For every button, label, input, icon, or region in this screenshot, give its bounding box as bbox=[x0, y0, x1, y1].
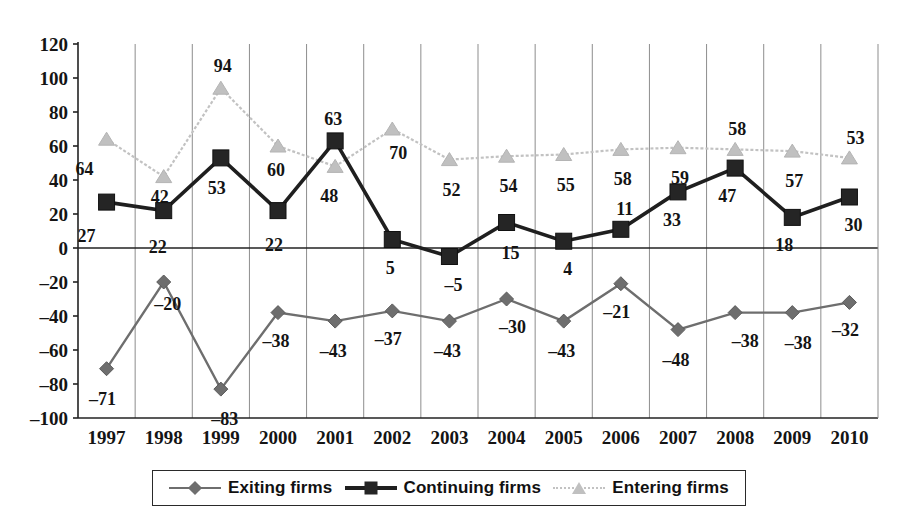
data-point-label: 4 bbox=[563, 259, 572, 279]
data-point-label: 58 bbox=[728, 119, 746, 139]
data-point-label: 15 bbox=[502, 243, 520, 263]
data-point-label: –30 bbox=[498, 317, 526, 337]
data-point-marker bbox=[213, 150, 229, 166]
y-axis-tick-labels: 120100806040200–20–40–60–80–100 bbox=[29, 34, 78, 429]
data-point-label: 94 bbox=[214, 56, 232, 76]
gridlines bbox=[135, 44, 821, 418]
legend-swatch-square-icon bbox=[345, 480, 397, 496]
data-point-marker bbox=[613, 221, 629, 237]
data-point-label: 11 bbox=[616, 199, 633, 219]
data-point-label: –71 bbox=[88, 389, 116, 409]
data-point-label: 22 bbox=[149, 237, 167, 257]
data-point-label: –37 bbox=[374, 329, 402, 349]
data-point-label: –5 bbox=[443, 275, 462, 295]
data-point-marker bbox=[327, 159, 343, 172]
chart-legend: Exiting firms Continuing firms Entering … bbox=[152, 470, 746, 506]
chart-container: 120100806040200–20–40–60–80–100 19971998… bbox=[0, 0, 899, 528]
data-point-label: 63 bbox=[324, 109, 342, 129]
data-point-label: 58 bbox=[614, 169, 632, 189]
y-tick-label: 20 bbox=[49, 204, 68, 225]
data-point-label: 53 bbox=[846, 128, 864, 148]
data-point-label: 5 bbox=[386, 258, 395, 278]
data-point-label: 60 bbox=[267, 160, 285, 180]
x-tick-label: 2007 bbox=[659, 427, 698, 448]
data-point-marker bbox=[557, 314, 571, 328]
data-point-marker bbox=[728, 306, 742, 320]
data-point-label: –32 bbox=[831, 320, 859, 340]
data-point-label: 64 bbox=[76, 159, 94, 179]
data-point-label: 33 bbox=[663, 210, 681, 230]
data-point-label: 27 bbox=[78, 226, 96, 246]
y-tick-label: 80 bbox=[49, 102, 68, 123]
data-point-marker bbox=[442, 314, 456, 328]
data-point-marker bbox=[384, 122, 400, 135]
y-tick-label: 0 bbox=[59, 238, 69, 259]
data-point-marker bbox=[328, 314, 342, 328]
x-tick-label: 1999 bbox=[202, 427, 240, 448]
data-point-label: –48 bbox=[662, 350, 690, 370]
legend-swatch-diamond-icon bbox=[169, 480, 221, 496]
data-point-label: –43 bbox=[547, 341, 575, 361]
legend-label-continuing-firms: Continuing firms bbox=[404, 478, 542, 498]
x-tick-label: 2006 bbox=[602, 427, 640, 448]
legend-label-entering-firms: Entering firms bbox=[612, 478, 729, 498]
y-tick-label: –40 bbox=[39, 306, 69, 327]
data-point-marker bbox=[841, 151, 857, 164]
data-point-marker bbox=[156, 170, 172, 183]
data-point-label: 42 bbox=[151, 187, 169, 207]
y-tick-label: 40 bbox=[49, 170, 68, 191]
data-point-marker bbox=[556, 233, 572, 249]
data-point-label: 30 bbox=[844, 215, 862, 235]
data-point-marker bbox=[499, 215, 515, 231]
line-chart-plot: 120100806040200–20–40–60–80–100 19971998… bbox=[0, 0, 899, 528]
x-tick-label: 2009 bbox=[773, 427, 811, 448]
data-point-label: 55 bbox=[557, 175, 575, 195]
data-point-label: –38 bbox=[731, 331, 759, 351]
data-point-label: 48 bbox=[320, 186, 338, 206]
legend-swatch-triangle-icon bbox=[553, 480, 605, 496]
data-point-label: 22 bbox=[265, 235, 283, 255]
data-point-marker bbox=[327, 133, 343, 149]
data-point-marker bbox=[841, 189, 857, 205]
data-point-marker bbox=[270, 203, 286, 219]
data-point-label: –43 bbox=[433, 341, 461, 361]
x-tick-label: 2001 bbox=[316, 427, 354, 448]
x-tick-label: 2000 bbox=[259, 427, 297, 448]
x-tick-label: 2002 bbox=[373, 427, 411, 448]
legend-item-entering-firms[interactable]: Entering firms bbox=[553, 478, 729, 498]
data-point-label: 53 bbox=[208, 178, 226, 198]
y-tick-label: –100 bbox=[29, 408, 68, 429]
x-tick-label: 1997 bbox=[88, 427, 127, 448]
data-point-label: 47 bbox=[718, 186, 736, 206]
data-point-marker bbox=[100, 362, 114, 376]
data-point-marker bbox=[99, 132, 115, 145]
y-tick-label: 100 bbox=[40, 68, 69, 89]
x-tick-label: 2008 bbox=[716, 427, 754, 448]
x-tick-label: 2005 bbox=[545, 427, 583, 448]
data-point-label: –38 bbox=[262, 331, 290, 351]
x-axis-tick-labels: 1997199819992000200120022003200420052006… bbox=[88, 427, 869, 448]
y-tick-label: –60 bbox=[39, 340, 69, 361]
data-point-marker bbox=[500, 292, 514, 306]
data-point-label: 54 bbox=[500, 176, 518, 196]
data-point-label: –38 bbox=[784, 333, 812, 353]
legend-item-exiting-firms[interactable]: Exiting firms bbox=[169, 478, 332, 498]
data-point-marker bbox=[384, 232, 400, 248]
data-point-label: 52 bbox=[442, 180, 460, 200]
data-point-label: –21 bbox=[602, 302, 630, 322]
data-point-label: –20 bbox=[153, 294, 181, 314]
legend-item-continuing-firms[interactable]: Continuing firms bbox=[345, 478, 542, 498]
data-point-label: –83 bbox=[210, 409, 238, 429]
data-point-marker bbox=[157, 275, 171, 289]
data-point-marker bbox=[842, 295, 856, 309]
data-point-marker bbox=[385, 304, 399, 318]
data-point-label: 57 bbox=[785, 171, 803, 191]
data-point-label: 59 bbox=[671, 168, 689, 188]
x-tick-label: 1998 bbox=[145, 427, 183, 448]
data-point-label: 18 bbox=[775, 235, 793, 255]
y-tick-label: 120 bbox=[40, 34, 69, 55]
legend-label-exiting-firms: Exiting firms bbox=[228, 478, 332, 498]
y-tick-label: –20 bbox=[39, 272, 69, 293]
data-point-marker bbox=[441, 249, 457, 265]
data-point-marker bbox=[784, 209, 800, 225]
